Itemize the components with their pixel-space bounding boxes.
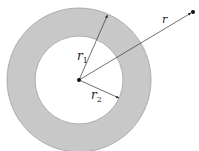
r1-label-subscript: 1: [83, 56, 88, 65]
r-label: r: [162, 13, 168, 26]
r2-label-subscript: 2: [97, 95, 102, 104]
external-point: [191, 10, 195, 14]
center-point: [77, 78, 81, 82]
annulus-diagram: r r1 r2: [0, 0, 199, 151]
